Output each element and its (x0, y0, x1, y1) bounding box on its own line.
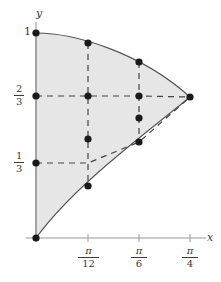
y-tick-label-two-thirds: 2 3 (14, 84, 24, 108)
point-dot (84, 39, 91, 46)
point-dot (32, 159, 39, 166)
fraction-numerator: π (182, 246, 198, 256)
point-dot (32, 234, 39, 241)
point-dot (186, 93, 193, 100)
plot-canvas (0, 0, 221, 282)
y-tick-label-one-third: 1 3 (14, 151, 24, 175)
fraction-numerator: 2 (14, 84, 24, 94)
point-dot (135, 114, 142, 121)
x-axis-label: x (207, 232, 213, 243)
fraction-denominator: 12 (78, 259, 99, 269)
x-tick-label-pi-6: π 6 (131, 246, 147, 270)
fraction-denominator: 4 (182, 259, 198, 269)
point-dot (84, 92, 91, 99)
point-dot (84, 135, 91, 142)
fraction-numerator: 1 (14, 151, 24, 161)
fraction-denominator: 6 (131, 259, 147, 269)
fraction-numerator: π (131, 246, 147, 256)
point-dot (32, 29, 39, 36)
point-dot (135, 58, 142, 65)
x-tick-label-pi-12: π 12 (78, 246, 99, 270)
point-dot (135, 138, 142, 145)
fraction-denominator: 3 (14, 97, 24, 107)
figure-region-plot: y x 1 2 3 1 3 π 12 π 6 (0, 0, 221, 282)
x-tick-label-pi-4: π 4 (182, 246, 198, 270)
point-dot (32, 92, 39, 99)
y-tick-label-1: 1 (24, 26, 31, 37)
fraction-numerator: π (78, 246, 99, 256)
point-dot (84, 182, 91, 189)
fraction-denominator: 3 (14, 164, 24, 174)
y-axis-label: y (36, 8, 42, 19)
point-dot (135, 92, 142, 99)
shaded-region (36, 33, 190, 238)
